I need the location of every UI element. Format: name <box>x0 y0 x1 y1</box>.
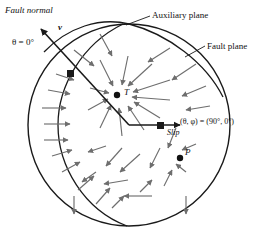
fault-normal-pierce-point <box>67 70 74 77</box>
auxiliary-plane-arc <box>58 24 127 226</box>
fault-plane-arc <box>44 22 223 97</box>
fault-normal-vector <box>41 29 129 125</box>
tension-axis-dot <box>114 92 120 98</box>
radiation-pattern-arrows <box>42 34 210 214</box>
focal-mechanism-figure <box>0 0 277 241</box>
nodal-planes <box>44 22 223 226</box>
slip-pierce-point <box>157 122 164 129</box>
pressure-axis-dot <box>177 155 183 161</box>
auxiliary-plane-leader <box>126 16 150 25</box>
